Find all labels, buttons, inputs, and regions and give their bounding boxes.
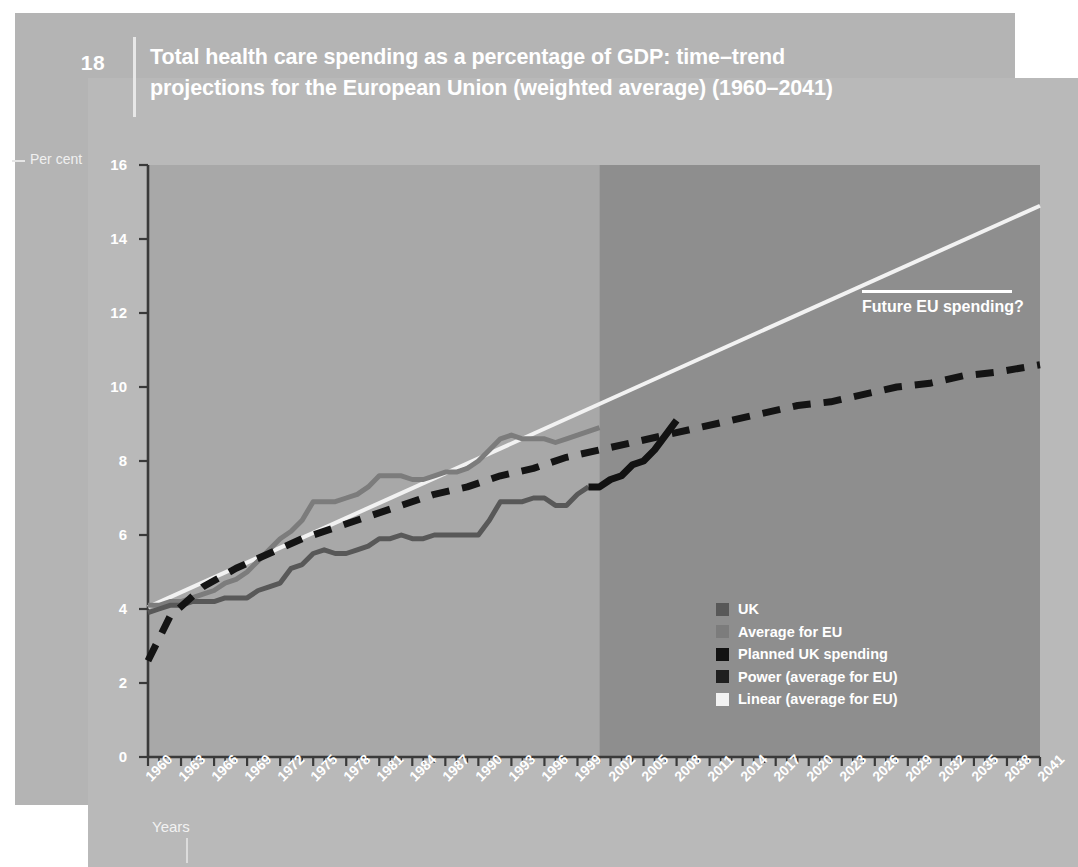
legend-label: Linear (average for EU): [738, 691, 898, 707]
y-tick-label: 12: [99, 304, 127, 321]
y-tick-label: 4: [99, 600, 127, 617]
chart-plot-area: [0, 0, 1078, 867]
legend-label: Planned UK spending: [738, 646, 888, 662]
legend-swatch-icon: [716, 670, 729, 683]
chart-svg: [0, 0, 1078, 867]
y-tick-label: 2: [99, 674, 127, 691]
legend-swatch-icon: [716, 625, 729, 638]
annotation-rule: [862, 290, 1012, 293]
legend-item: Planned UK spending: [716, 643, 898, 666]
legend-label: UK: [738, 601, 759, 617]
legend-item: Linear (average for EU): [716, 688, 898, 711]
y-tick-label: 8: [99, 452, 127, 469]
y-tick-label: 16: [99, 156, 127, 173]
y-tick-label: 6: [99, 526, 127, 543]
legend-swatch-icon: [716, 603, 729, 616]
chart-legend: UKAverage for EUPlanned UK spendingPower…: [716, 598, 898, 711]
legend-swatch-icon: [716, 648, 729, 661]
y-tick-label: 10: [99, 378, 127, 395]
y-tick-label: 14: [99, 230, 127, 247]
future-spending-annotation: Future EU spending?: [862, 290, 1024, 316]
legend-item: Average for EU: [716, 621, 898, 644]
annotation-label: Future EU spending?: [862, 298, 1024, 316]
legend-label: Power (average for EU): [738, 669, 898, 685]
figure-page: 18 Total health care spending as a perce…: [0, 0, 1078, 867]
legend-label: Average for EU: [738, 624, 842, 640]
y-tick-label: 0: [99, 748, 127, 765]
legend-item: UK: [716, 598, 898, 621]
legend-swatch-icon: [716, 693, 729, 706]
plot-band-historical: [148, 165, 600, 757]
legend-item: Power (average for EU): [716, 666, 898, 689]
